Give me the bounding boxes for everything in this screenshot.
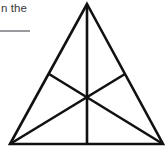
geometry-figure xyxy=(0,0,167,152)
page-root: n the xyxy=(0,0,167,152)
triangle-with-medians-svg xyxy=(0,0,167,152)
